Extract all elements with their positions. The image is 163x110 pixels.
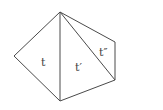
edge-left-bottom [14,56,60,101]
edge-top-left [14,12,60,56]
edge-bottom-rightbottom [60,80,115,101]
label-t: t [41,56,46,69]
triangulated-polygon-diagram: t t′ t″ [0,0,163,110]
edge-top-righttop [60,12,115,42]
label-t-prime: t′ [75,61,82,74]
label-t-double-prime: t″ [99,46,108,59]
